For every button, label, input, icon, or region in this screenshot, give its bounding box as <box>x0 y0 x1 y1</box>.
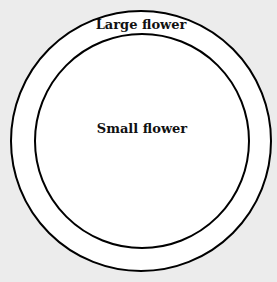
small-flower-circle <box>35 34 249 248</box>
nested-circles-diagram: Large flower Small flower <box>0 0 277 282</box>
large-flower-label: Large flower <box>96 17 187 32</box>
small-flower-label: Small flower <box>97 121 188 136</box>
diagram-canvas: Large flower Small flower <box>0 0 277 282</box>
